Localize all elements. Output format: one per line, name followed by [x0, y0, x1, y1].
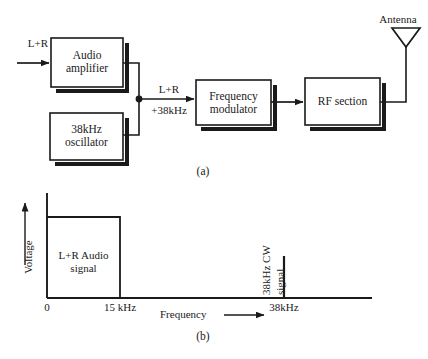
pilot-label-line2: signal: [274, 225, 286, 295]
figure-container: " indicator --> " indicator --> L+R Audi…: [0, 0, 428, 359]
x-tick-pilot: 38kHz: [261, 301, 307, 313]
block-label-frequency-modulator-line2: modulator: [196, 103, 271, 116]
spectrum-y-axis-label: Voltage: [22, 222, 34, 292]
block-label-rf-section: RF section: [305, 95, 380, 108]
block-label-frequency-modulator-line1: Frequency: [196, 90, 271, 103]
x-tick-audio: 15 kHz: [95, 301, 145, 313]
spectrum-x-axis-label: Frequency: [160, 308, 222, 320]
mixed-signal-label-line1: L+R: [146, 83, 192, 95]
mixed-signal-label-line2: +38kHz: [143, 104, 195, 116]
block-label-oscillator-line1: 38kHz: [50, 123, 123, 136]
block-label-audio-amplifier-line2: amplifier: [51, 62, 123, 75]
x-tick-origin: 0: [37, 301, 57, 313]
block-label-audio-amplifier-line1: Audio: [51, 49, 123, 62]
pilot-label-line1: 38kHz CW: [260, 225, 272, 295]
input-signal-label: L+R: [18, 37, 58, 49]
block-label-oscillator-line2: oscillator: [50, 136, 123, 149]
audio-band-label-line1: L+R Audio: [47, 249, 120, 261]
caption-b: (b): [188, 330, 218, 343]
caption-a: (a): [188, 165, 218, 178]
antenna-icon: [392, 28, 420, 76]
antenna-label: Antenna: [370, 13, 426, 25]
audio-band-label-line2: signal: [47, 262, 120, 274]
